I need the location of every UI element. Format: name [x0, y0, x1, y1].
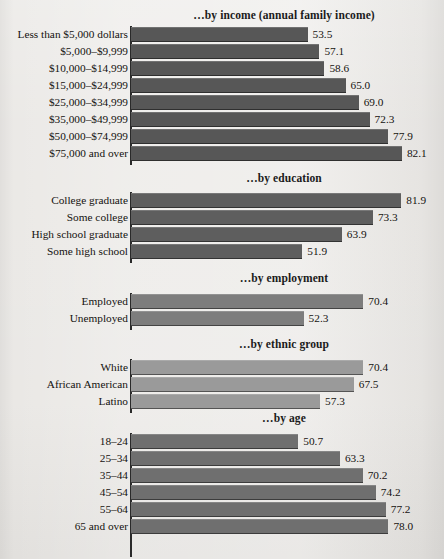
category-label: $75,000 and over	[49, 148, 128, 159]
bar	[131, 434, 298, 449]
bar-container	[131, 244, 302, 259]
bar-row: 35–4470.2	[0, 468, 444, 483]
chart-panel: …by employmentEmployed70.4Unemployed52.3	[0, 272, 444, 328]
bar-row: Latino57.3	[0, 394, 444, 409]
bar-value-label: 65.0	[351, 80, 371, 91]
bar	[131, 468, 363, 483]
bar	[131, 210, 373, 225]
bar-row: High school graduate63.9	[0, 227, 444, 242]
bar	[131, 61, 324, 76]
bar-container	[131, 360, 363, 375]
bar-value-label: 78.0	[393, 521, 413, 532]
bar-row: Employed70.4	[0, 294, 444, 309]
panel-title: …by education	[131, 172, 437, 184]
bar-row: Unemployed52.3	[0, 311, 444, 326]
bar-container	[131, 485, 376, 500]
bar-value-label: 70.4	[368, 362, 388, 373]
bar	[131, 146, 402, 161]
category-label: 45–54	[100, 487, 128, 498]
chart-panel: …by educationCollege graduate81.9Some co…	[0, 172, 444, 261]
bar-value-label: 70.2	[368, 470, 388, 481]
bar-row: 55–6477.2	[0, 502, 444, 517]
bar-row: Some high school51.9	[0, 244, 444, 259]
bar-value-label: 70.4	[368, 296, 388, 307]
bar	[131, 244, 302, 259]
bar-container	[131, 78, 346, 93]
bar-value-label: 57.1	[324, 46, 344, 57]
bar	[131, 227, 342, 242]
bar	[131, 112, 370, 127]
bar-container	[131, 210, 373, 225]
category-label: Latino	[99, 396, 129, 407]
bar-value-label: 77.2	[391, 504, 411, 515]
bar	[131, 129, 388, 144]
bar-row: $5,000–$9,99957.1	[0, 44, 444, 59]
category-label: 25–34	[100, 453, 128, 464]
bar	[131, 294, 363, 309]
category-label: $35,000–$49,999	[49, 114, 128, 125]
bar-container	[131, 468, 363, 483]
bar-value-label: 63.3	[345, 453, 365, 464]
category-label: Unemployed	[70, 313, 128, 324]
bar-row: $35,000–$49,99972.3	[0, 112, 444, 127]
bar	[131, 519, 388, 534]
bar-value-label: 82.1	[407, 148, 427, 159]
category-label: Less than $5,000 dollars	[18, 29, 128, 40]
category-label: Some college	[67, 212, 128, 223]
bar-value-label: 72.3	[375, 114, 395, 125]
bar-container	[131, 227, 342, 242]
bar	[131, 78, 346, 93]
bar	[131, 485, 376, 500]
bar-container	[131, 394, 320, 409]
bar-value-label: 81.9	[406, 195, 426, 206]
bar	[131, 451, 340, 466]
bar-row: White70.4	[0, 360, 444, 375]
bar-row: $25,000–$34,99969.0	[0, 95, 444, 110]
category-label: White	[100, 362, 128, 373]
bar-container	[131, 377, 354, 392]
bar-row: Some college73.3	[0, 210, 444, 225]
category-label: $50,000–$74,999	[49, 131, 128, 142]
bar	[131, 311, 304, 326]
bar-container	[131, 112, 370, 127]
bar-container	[131, 294, 363, 309]
bar-value-label: 50.7	[303, 436, 323, 447]
category-label: High school graduate	[31, 229, 128, 240]
bar-value-label: 63.9	[347, 229, 367, 240]
bar-row: African American67.5	[0, 377, 444, 392]
bar-container	[131, 434, 298, 449]
bar-row: College graduate81.9	[0, 193, 444, 208]
bar	[131, 502, 386, 517]
bar-container	[131, 44, 319, 59]
category-label: 55–64	[100, 504, 128, 515]
bar-value-label: 51.9	[307, 246, 327, 257]
category-label: 35–44	[100, 470, 128, 481]
bar-container	[131, 95, 359, 110]
bar-container	[131, 146, 402, 161]
panel-title: …by ethnic group	[131, 338, 437, 350]
bar-container	[131, 502, 386, 517]
category-label: $25,000–$34,999	[49, 97, 128, 108]
chart-page: …by income (annual family income)Less th…	[0, 0, 444, 559]
bar-row: $10,000–$14,99958.6	[0, 61, 444, 76]
category-label: $15,000–$24,999	[49, 80, 128, 91]
bar-value-label: 53.5	[313, 29, 333, 40]
panel-title: …by income (annual family income)	[131, 9, 437, 21]
bar	[131, 27, 308, 42]
panel-title: …by age	[131, 412, 437, 424]
bar-container	[131, 129, 388, 144]
category-label: $5,000–$9,999	[60, 46, 128, 57]
bar-container	[131, 193, 401, 208]
category-label: Employed	[82, 296, 128, 307]
chart-panel: …by ethnic groupWhite70.4African America…	[0, 338, 444, 411]
chart-panel: …by income (annual family income)Less th…	[0, 9, 444, 163]
bar	[131, 360, 363, 375]
category-label: 18–24	[100, 436, 128, 447]
bar-value-label: 73.3	[378, 212, 398, 223]
bar-value-label: 57.3	[325, 396, 345, 407]
bar-row: 65 and over78.0	[0, 519, 444, 534]
bar-container	[131, 27, 308, 42]
bar-container	[131, 61, 324, 76]
bar-value-label: 58.6	[329, 63, 349, 74]
bar-value-label: 69.0	[364, 97, 384, 108]
